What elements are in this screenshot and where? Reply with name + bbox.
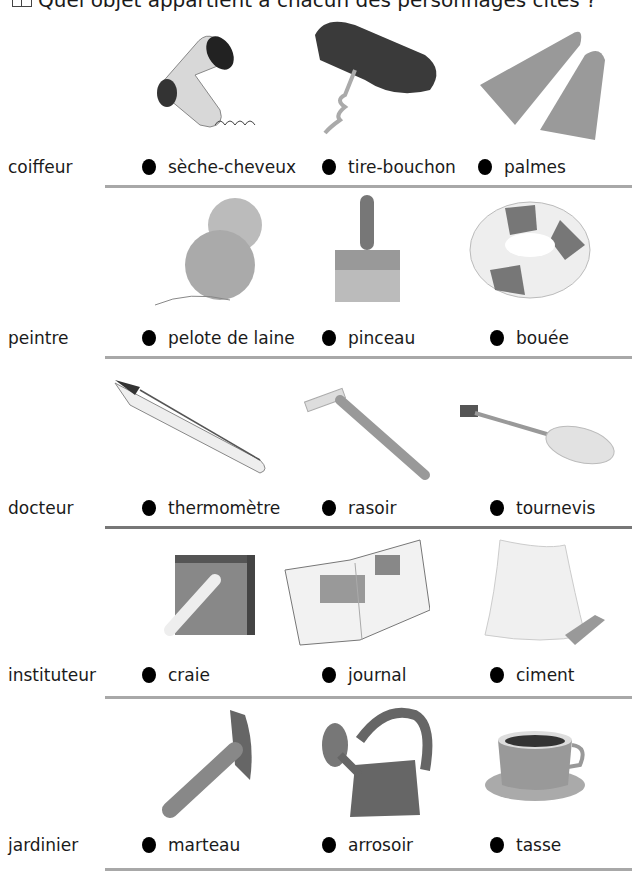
cup-icon [480, 705, 630, 835]
bullet-icon[interactable] [490, 667, 504, 683]
character-label: instituteur [8, 665, 96, 685]
bullet-icon[interactable] [322, 159, 336, 175]
row-divider [105, 868, 632, 871]
bullet-icon[interactable] [490, 330, 504, 346]
corkscrew-icon [305, 15, 455, 145]
flippers-icon [470, 15, 620, 145]
razor-icon [300, 365, 450, 495]
thermometer-icon [110, 365, 290, 495]
option-tire-bouchon[interactable]: tire-bouchon [322, 157, 456, 177]
character-label: peintre [8, 328, 69, 348]
bullet-icon[interactable] [322, 667, 336, 683]
row-divider [105, 696, 632, 699]
bullet-icon[interactable] [142, 500, 156, 516]
bullet-icon[interactable] [322, 500, 336, 516]
option-bouee[interactable]: bouée [490, 328, 569, 348]
row-instituteur: instituteur craie journal ciment [0, 535, 632, 705]
option-craie[interactable]: craie [142, 665, 210, 685]
screwdriver-icon [455, 365, 625, 495]
bullet-icon[interactable] [490, 837, 504, 853]
row-divider [105, 185, 632, 188]
row-docteur: docteur thermomètre rasoir tournevis [0, 365, 632, 535]
yarn-ball-icon [150, 190, 300, 320]
paintbrush-icon [320, 190, 470, 320]
hammer-icon [155, 705, 305, 835]
option-tasse[interactable]: tasse [490, 835, 561, 855]
option-seche-cheveux[interactable]: sèche-cheveux [142, 157, 296, 177]
option-arrosoir[interactable]: arrosoir [322, 835, 413, 855]
cement-bag-icon [465, 535, 615, 665]
character-label: jardinier [8, 835, 78, 855]
hair-dryer-icon [125, 15, 275, 145]
option-rasoir[interactable]: rasoir [322, 498, 396, 518]
life-buoy-icon [465, 190, 615, 320]
question-text: Quel objet appartient à chacun des perso… [38, 0, 597, 10]
book-icon [12, 0, 32, 7]
bullet-icon[interactable] [142, 330, 156, 346]
character-label: coiffeur [8, 157, 72, 177]
bullet-icon[interactable] [142, 159, 156, 175]
option-journal[interactable]: journal [322, 665, 407, 685]
row-coiffeur: coiffeur sèche-cheveux tire-bouchon palm… [0, 15, 632, 185]
row-divider [105, 356, 632, 359]
bullet-icon[interactable] [490, 500, 504, 516]
option-pinceau[interactable]: pinceau [322, 328, 415, 348]
row-jardinier: jardinier marteau arrosoir tasse [0, 705, 632, 875]
option-tournevis[interactable]: tournevis [490, 498, 595, 518]
watering-can-icon [315, 705, 465, 835]
bullet-icon[interactable] [322, 837, 336, 853]
option-ciment[interactable]: ciment [490, 665, 575, 685]
option-pelote-de-laine[interactable]: pelote de laine [142, 328, 295, 348]
bullet-icon[interactable] [478, 159, 492, 175]
option-marteau[interactable]: marteau [142, 835, 240, 855]
row-peintre: peintre pelote de laine pinceau bouée [0, 190, 632, 360]
bullet-icon[interactable] [142, 837, 156, 853]
option-thermometre[interactable]: thermomètre [142, 498, 280, 518]
option-palmes[interactable]: palmes [478, 157, 566, 177]
bullet-icon[interactable] [142, 667, 156, 683]
bullet-icon[interactable] [322, 330, 336, 346]
row-divider [105, 526, 632, 529]
character-label: docteur [8, 498, 73, 518]
newspaper-icon [280, 535, 430, 665]
